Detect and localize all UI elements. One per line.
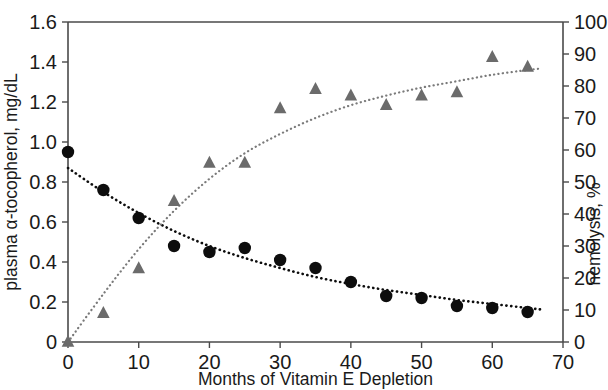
tocopherol-data-point bbox=[521, 306, 533, 318]
hemolysis-data-point bbox=[415, 88, 428, 100]
tocopherol-data-point bbox=[309, 262, 321, 274]
chart-figure: 01020304050607000.20.40.60.81.01.21.41.6… bbox=[0, 0, 608, 390]
y-right-tick-label: 100 bbox=[574, 11, 607, 33]
hemolysis-data-point bbox=[97, 306, 110, 318]
tocopherol-data-point bbox=[451, 300, 463, 312]
hemolysis-data-point bbox=[345, 88, 358, 100]
tocopherol-data-point bbox=[486, 302, 498, 314]
y-right-tick-label: 80 bbox=[574, 75, 596, 97]
hemolysis-data-point bbox=[451, 85, 464, 97]
hemolysis-data-point bbox=[309, 82, 322, 94]
tocopherol-data-point bbox=[415, 292, 427, 304]
x-tick-label: 60 bbox=[481, 351, 503, 373]
y-right-tick-label: 0 bbox=[574, 331, 585, 353]
x-tick-label: 70 bbox=[552, 351, 574, 373]
data-markers bbox=[62, 50, 534, 347]
y-left-tick-label: 0 bbox=[46, 331, 57, 353]
y-left-tick-label: 0.4 bbox=[29, 251, 57, 273]
tocopherol-data-point bbox=[62, 146, 74, 158]
y-right-tick-label: 10 bbox=[574, 299, 596, 321]
y-left-tick-label: 1.6 bbox=[29, 11, 57, 33]
hemolysis-rise-fit bbox=[68, 68, 542, 342]
scatter-plot: 01020304050607000.20.40.60.81.01.21.41.6… bbox=[0, 0, 608, 390]
tocopherol-decay-fit bbox=[68, 168, 542, 310]
tocopherol-data-point bbox=[239, 242, 251, 254]
axis-labels: 01020304050607000.20.40.60.81.01.21.41.6… bbox=[1, 11, 607, 389]
tocopherol-data-point bbox=[380, 290, 392, 302]
tocopherol-data-point bbox=[203, 246, 215, 258]
y-right-tick-label: 90 bbox=[574, 43, 596, 65]
hemolysis-data-point bbox=[274, 101, 287, 113]
tocopherol-data-point bbox=[345, 276, 357, 288]
y-left-tick-label: 0.8 bbox=[29, 171, 57, 193]
tocopherol-data-point bbox=[133, 212, 145, 224]
hemolysis-data-point bbox=[486, 50, 499, 62]
x-tick-label: 0 bbox=[62, 351, 73, 373]
y-left-tick-label: 0.2 bbox=[29, 291, 57, 313]
trendlines bbox=[68, 68, 542, 342]
y-left-tick-label: 1.4 bbox=[29, 51, 57, 73]
tocopherol-data-point bbox=[168, 240, 180, 252]
hemolysis-data-point bbox=[168, 194, 181, 206]
x-tick-label: 10 bbox=[128, 351, 150, 373]
y-left-tick-label: 1.2 bbox=[29, 91, 57, 113]
x-axis-title: Months of Vitamin E Depletion bbox=[198, 369, 433, 389]
hemolysis-data-point bbox=[62, 335, 75, 347]
hemolysis-data-point bbox=[203, 156, 216, 168]
tocopherol-data-point bbox=[97, 184, 109, 196]
hemolysis-data-point bbox=[238, 156, 251, 168]
hemolysis-data-point bbox=[132, 261, 145, 273]
y-axis-left-title: plasma α-tocopherol, mg/dL bbox=[1, 73, 21, 291]
tocopherol-data-point bbox=[274, 254, 286, 266]
y-left-tick-label: 1.0 bbox=[29, 131, 57, 153]
y-right-tick-label: 70 bbox=[574, 107, 596, 129]
y-axis-right-title: hemolysis, % bbox=[584, 182, 604, 285]
hemolysis-data-point bbox=[380, 98, 393, 110]
hemolysis-data-point bbox=[521, 60, 534, 72]
y-right-tick-label: 60 bbox=[574, 139, 596, 161]
axes bbox=[62, 22, 569, 348]
y-left-tick-label: 0.6 bbox=[29, 211, 57, 233]
